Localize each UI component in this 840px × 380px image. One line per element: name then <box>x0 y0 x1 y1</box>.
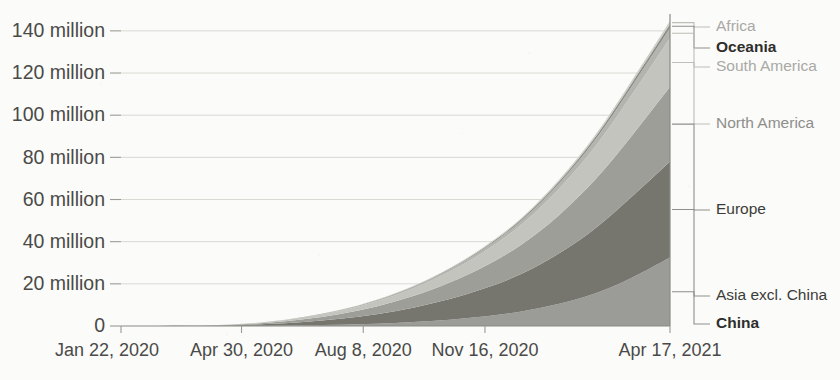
y-tick-label: 120 million <box>12 61 105 83</box>
legend-labels: AfricaOceaniaSouth AmericaNorth AmericaE… <box>716 17 828 331</box>
legend-label-africa: Africa <box>716 17 756 34</box>
legend-label-china: China <box>716 314 759 331</box>
y-tick-label: 60 million <box>23 188 105 210</box>
area-bands <box>121 21 670 326</box>
y-tick-label: 0 <box>94 314 105 336</box>
legend-leader-lines <box>672 23 710 324</box>
legend-leader-line <box>672 26 710 48</box>
y-tick-label: 100 million <box>12 103 105 125</box>
legend-leader-line <box>672 210 710 297</box>
legend-label-europe: Europe <box>716 200 766 217</box>
x-tick-label: Jan 22, 2020 <box>55 340 159 360</box>
legend-label-north-america: North America <box>716 114 815 131</box>
y-tick-label: 80 million <box>23 146 105 168</box>
legend-leader-line <box>672 124 710 210</box>
y-tick-label: 20 million <box>23 272 105 294</box>
x-axis-tick-labels: Jan 22, 2020Apr 30, 2020Aug 8, 2020Nov 1… <box>55 340 722 360</box>
x-tick-label: Apr 17, 2021 <box>618 340 721 360</box>
y-axis-tick-labels: 020 million40 million60 million80 millio… <box>12 19 121 336</box>
y-tick-label: 40 million <box>23 230 105 252</box>
legend-leader-line <box>672 63 710 125</box>
x-tick-label: Aug 8, 2020 <box>315 340 412 360</box>
chart-page: 020 million40 million60 million80 millio… <box>0 0 840 380</box>
x-tick-label: Apr 30, 2020 <box>190 340 293 360</box>
legend-label-south-america: South America <box>716 57 817 74</box>
legend-leader-line <box>672 33 710 67</box>
stacked-area-chart: 020 million40 million60 million80 millio… <box>0 0 840 380</box>
x-tick-label: Nov 16, 2020 <box>431 340 538 360</box>
legend-label-asia-excl-china: Asia excl. China <box>716 286 828 303</box>
y-tick-label: 140 million <box>12 19 105 41</box>
legend-label-oceania: Oceania <box>716 38 777 55</box>
